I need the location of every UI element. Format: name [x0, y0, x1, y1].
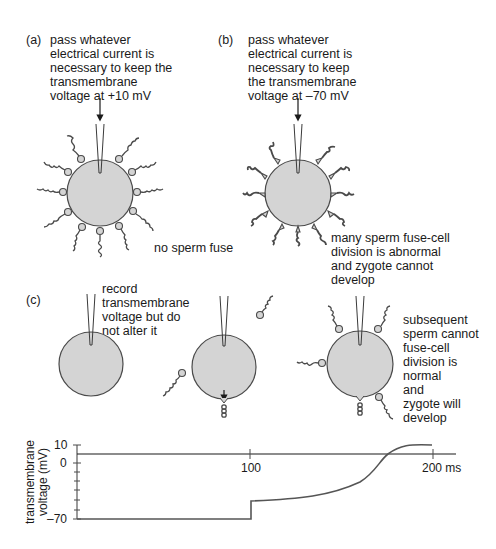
- panel-c-egg-cell-1: [59, 294, 123, 396]
- panel-c-egg-cell-2: [163, 296, 273, 417]
- voltage-chart: [73, 445, 456, 519]
- x-tick-100: 100: [241, 461, 261, 475]
- panel-a-egg-cell: [37, 98, 163, 257]
- panel-b-egg-cell: [243, 98, 354, 246]
- y-axis-label: transmembrane voltage (mV): [24, 437, 52, 527]
- y-tick-10: 10: [54, 438, 67, 452]
- panel-c-egg-cell-3: [297, 296, 393, 419]
- x-tick-200: 200 ms: [422, 461, 461, 475]
- y-tick-0: 0: [60, 456, 67, 470]
